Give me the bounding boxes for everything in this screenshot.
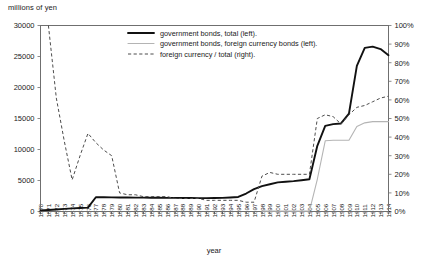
y-tick-label: 0 — [30, 207, 34, 216]
x-tick-label: 1905 — [314, 203, 321, 217]
x-tick-label: 1889 — [187, 203, 194, 217]
x-tick-label: 1890 — [195, 203, 202, 217]
x-tick-label: 1892 — [211, 203, 218, 217]
y-tick-label: 25000 — [14, 52, 35, 61]
x-tick-label: 1891 — [203, 203, 210, 217]
y-right-tick-label: 40% — [395, 133, 410, 142]
x-tick-label: 1879 — [108, 203, 115, 217]
x-axis-title: year — [207, 246, 222, 255]
x-tick-label: 1880 — [116, 203, 123, 217]
x-tick-label: 1913 — [377, 203, 384, 217]
x-tick-label: 1897 — [251, 203, 258, 217]
y-axis-left-ticks: 050001000015000200002500030000 — [14, 21, 41, 216]
x-tick-label: 1887 — [172, 203, 179, 217]
y-tick-label: 20000 — [14, 83, 35, 92]
x-tick-label: 1885 — [156, 203, 163, 217]
chart-plot: 050001000015000200002500030000 0%10%20%3… — [0, 0, 438, 259]
x-tick-label: 1906 — [322, 203, 329, 217]
y-tick-label: 15000 — [14, 114, 35, 123]
x-tick-label: 1882 — [132, 203, 139, 217]
legend-label: government bonds, foreign currency bonds… — [160, 39, 317, 48]
x-tick-label: 1874 — [69, 203, 76, 217]
x-tick-label: 1899 — [266, 203, 273, 217]
y-tick-label: 30000 — [14, 21, 35, 30]
x-tick-label: 1888 — [179, 203, 186, 217]
x-tick-label: 1908 — [338, 203, 345, 217]
y-right-tick-label: 0% — [395, 207, 406, 216]
x-tick-label: 1912 — [369, 203, 376, 217]
x-tick-label: 1910 — [353, 203, 360, 217]
x-tick-label: 1878 — [100, 203, 107, 217]
x-tick-label: 1901 — [282, 203, 289, 217]
y-right-tick-label: 100% — [395, 21, 415, 30]
x-tick-label: 1898 — [259, 203, 266, 217]
x-tick-label: 1900 — [274, 203, 281, 217]
x-tick-label: 1893 — [219, 203, 226, 217]
x-tick-label: 1895 — [235, 203, 242, 217]
y-tick-label: 10000 — [14, 145, 35, 154]
x-tick-label: 1873 — [61, 203, 68, 217]
y-tick-label: 5000 — [18, 176, 35, 185]
y-right-tick-label: 50% — [395, 114, 410, 123]
chart-legend: government bonds, total (left).governmen… — [128, 29, 317, 59]
y-right-tick-label: 60% — [395, 96, 410, 105]
chart-container: millions of yen 050001000015000200002500… — [0, 0, 438, 259]
x-tick-label: 1881 — [124, 203, 131, 217]
x-tick-label: 1902 — [290, 203, 297, 217]
x-tick-label: 1896 — [243, 203, 250, 217]
x-tick-label: 1886 — [164, 203, 171, 217]
legend-label: government bonds, total (left). — [160, 29, 257, 38]
x-tick-label: 1907 — [330, 203, 337, 217]
x-tick-label: 1909 — [346, 203, 353, 217]
x-tick-label: 1903 — [298, 203, 305, 217]
y-right-tick-label: 80% — [395, 59, 410, 68]
y-right-tick-label: 70% — [395, 77, 410, 86]
y-axis-right-ticks: 0%10%20%30%40%50%60%70%80%90%100% — [389, 21, 415, 216]
y-right-tick-label: 90% — [395, 40, 410, 49]
series-line — [262, 122, 389, 212]
y-right-tick-label: 20% — [395, 170, 410, 179]
x-tick-label: 1894 — [227, 203, 234, 217]
legend-label: foreign currency / total (right). — [160, 50, 255, 59]
y-right-tick-label: 30% — [395, 152, 410, 161]
x-tick-label: 1883 — [140, 203, 147, 217]
x-tick-label: 1884 — [148, 203, 155, 217]
series-line — [41, 47, 389, 211]
x-tick-label: 1875 — [77, 203, 84, 217]
x-tick-label: 1877 — [92, 203, 99, 217]
x-tick-label: 1911 — [361, 204, 368, 218]
y-right-tick-label: 10% — [395, 189, 410, 198]
